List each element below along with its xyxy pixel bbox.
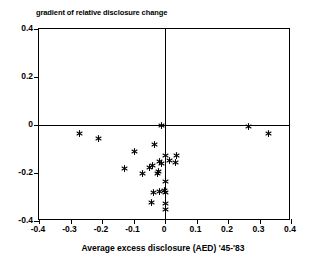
data-point — [265, 130, 272, 137]
x-axis-tick-labels: -0.4-0.3-0.2-0.100.10.20.30.4 — [38, 224, 290, 238]
data-point — [149, 162, 156, 169]
data-point — [95, 135, 102, 142]
x-tick-label: 0.4 — [284, 224, 296, 234]
data-point — [150, 189, 157, 196]
x-tick-label: 0.1 — [190, 224, 202, 234]
data-point — [173, 152, 180, 159]
plot-area — [38, 28, 290, 220]
x-axis-title: Average excess disclosure (AED) '45-'83 — [0, 243, 326, 253]
data-point — [76, 130, 83, 137]
y-tick-mark — [34, 29, 39, 30]
chart-title: gradient of relative disclosure change — [36, 8, 167, 17]
data-point — [172, 159, 179, 166]
x-tick-label: 0 — [162, 224, 167, 234]
data-point — [154, 170, 161, 177]
y-axis-zero-line — [165, 29, 166, 219]
x-tick-label: -0.4 — [31, 224, 46, 234]
y-tick-label: -0.2 — [18, 167, 33, 177]
y-tick-mark — [34, 173, 39, 174]
data-point — [131, 148, 138, 155]
y-tick-mark — [34, 77, 39, 78]
data-point — [155, 168, 162, 175]
data-point — [148, 199, 155, 206]
x-tick-label: -0.1 — [125, 224, 140, 234]
data-point — [139, 170, 146, 177]
y-tick-mark — [34, 125, 39, 126]
x-tick-label: 0.2 — [221, 224, 233, 234]
data-point — [156, 188, 163, 195]
x-tick-label: -0.2 — [94, 224, 109, 234]
y-axis-tick-labels: 0.40.20-0.2-0.4 — [0, 28, 33, 220]
data-point — [151, 141, 158, 148]
x-axis-zero-line — [39, 125, 289, 126]
data-point — [121, 165, 128, 172]
x-tick-label: -0.3 — [62, 224, 77, 234]
data-point — [146, 164, 153, 171]
y-tick-label: 0 — [28, 119, 33, 129]
y-tick-label: 0.4 — [21, 23, 33, 33]
data-point — [156, 158, 163, 165]
data-point — [166, 157, 173, 164]
scatter-plot-figure: gradient of relative disclosure change 0… — [0, 0, 326, 267]
y-tick-label: 0.2 — [21, 71, 33, 81]
x-tick-label: 0.3 — [253, 224, 265, 234]
